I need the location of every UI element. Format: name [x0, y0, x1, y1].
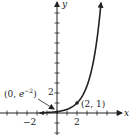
graph-figure: y x −2 2 2 (0, e−2) (2, 1) [0, 0, 132, 135]
tick-label-x-neg2: −2 [23, 118, 36, 127]
tick-label-x-2: 2 [74, 118, 80, 127]
point-label-2-1: (2, 1) [81, 100, 105, 109]
annotation-arrow [38, 99, 54, 109]
point-0-e-neg2 [55, 110, 58, 113]
plot-canvas [0, 0, 132, 135]
x-axis-label: x [124, 109, 129, 118]
y-axis-label: y [62, 0, 67, 9]
point-2-1 [75, 101, 79, 105]
curve-left-arrow-icon [38, 111, 44, 115]
point-label-0-e-neg2: (0, e−2) [4, 88, 37, 99]
tick-label-y-2: 2 [48, 88, 54, 97]
